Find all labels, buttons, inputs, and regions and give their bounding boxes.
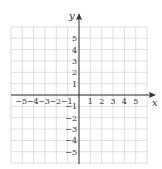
x-axis-label: x [152, 97, 158, 108]
y-tick-label: −3 [65, 125, 77, 134]
coordinate-plane: x y −5−4−3−2−11234554321−1−2−3−4−5 [0, 0, 162, 169]
x-tick-label: 5 [133, 97, 138, 106]
x-tick-label: 2 [99, 97, 104, 106]
y-axis-label: y [68, 10, 75, 21]
y-tick-label: 3 [72, 57, 77, 66]
x-tick-label: −3 [38, 97, 50, 106]
y-tick-label: 4 [72, 46, 77, 55]
x-tick-label: 1 [88, 97, 93, 106]
y-tick-label: 5 [72, 34, 77, 43]
y-tick-label: 1 [72, 80, 77, 89]
x-tick-label: 4 [122, 97, 127, 106]
y-tick-label: −4 [65, 136, 77, 145]
y-axis-arrow-icon [76, 13, 82, 20]
y-tick-label: −5 [65, 148, 77, 157]
x-tick-label: 3 [111, 97, 116, 106]
y-tick-label: 2 [72, 68, 77, 77]
x-tick-label: −5 [15, 97, 27, 106]
x-tick-label: −4 [27, 97, 39, 106]
y-tick-label: −2 [65, 114, 77, 123]
x-tick-label: −2 [49, 97, 61, 106]
y-tick-label: −1 [65, 102, 77, 111]
